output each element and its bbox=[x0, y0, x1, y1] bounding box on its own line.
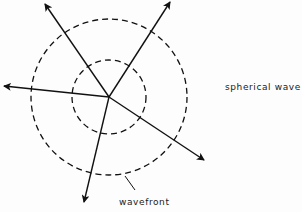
diagram-graphic bbox=[0, 0, 302, 212]
spherical-wave-diagram: spherical wave wavefront bbox=[0, 0, 302, 212]
ray-down-right-arrow bbox=[109, 97, 204, 160]
spherical-wave-label: spherical wave bbox=[225, 82, 301, 92]
wavefront-pointer-line bbox=[125, 176, 135, 190]
ray-down-arrow bbox=[84, 97, 109, 202]
ray-up-left-arrow bbox=[45, 4, 109, 97]
wavefront-label: wavefront bbox=[119, 197, 170, 207]
ray-up-right-arrow bbox=[109, 2, 170, 97]
ray-left-arrow bbox=[4, 86, 109, 97]
